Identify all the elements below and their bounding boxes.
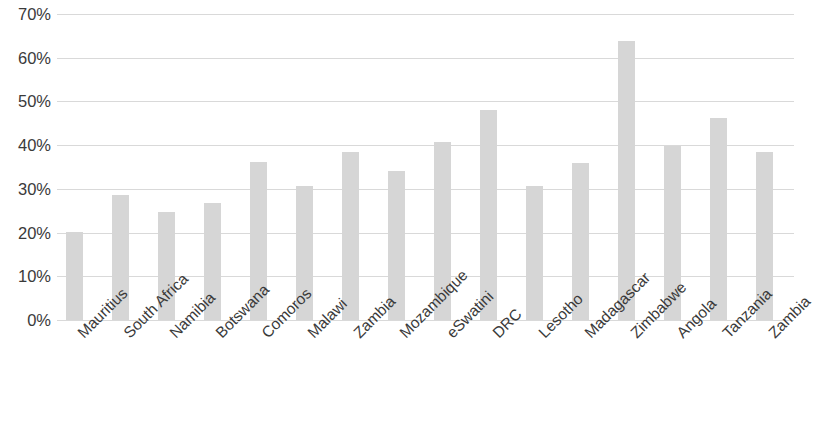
y-axis-tick-label: 30% <box>0 181 51 198</box>
y-axis-tick-label: 20% <box>0 225 51 242</box>
bars-group <box>57 0 794 321</box>
y-axis-tick-label: 0% <box>0 312 51 329</box>
y-axis-tick-label: 40% <box>0 137 51 154</box>
bar <box>710 118 727 320</box>
y-axis-tick-label: 60% <box>0 50 51 67</box>
bar <box>342 152 359 320</box>
x-axis: MauritiusSouth AfricaNamibiaBotswanaComo… <box>57 321 794 434</box>
y-axis-tick-label: 70% <box>0 6 51 23</box>
y-axis-tick-label: 10% <box>0 268 51 285</box>
bar <box>66 232 83 320</box>
y-axis-tick-label: 50% <box>0 93 51 110</box>
bar <box>526 186 543 320</box>
